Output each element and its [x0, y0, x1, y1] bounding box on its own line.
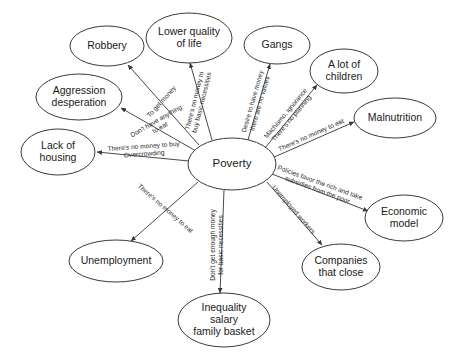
node-label-line: that close — [319, 266, 364, 278]
edge-label-line: Unemployed workers — [270, 184, 317, 237]
node-label-line: Poverty — [213, 157, 252, 169]
node-poverty[interactable]: Poverty — [188, 138, 276, 190]
edge-label-line: for basic necessities — [217, 215, 224, 275]
node-label-line: salary — [210, 313, 239, 325]
node-companies-that-close[interactable]: Companiesthat close — [302, 244, 380, 290]
node-label: Robbery — [87, 39, 127, 51]
node-lack-of-housing[interactable]: Lack ofhousing — [21, 129, 95, 175]
edge-label-line: Machismo, ignorance — [263, 87, 310, 140]
node-label-line: Lower quality — [158, 25, 221, 37]
concept-map-canvas: To get moneyThere's no money tobuy basic… — [0, 0, 458, 358]
node-label-line: housing — [40, 151, 77, 163]
node-label-line: Economic — [381, 205, 427, 217]
node-label-line: Robbery — [87, 39, 127, 51]
node-label-line: Malnutrition — [368, 111, 422, 123]
nodes-layer: RobberyLower qualityof lifeGangsA lot of… — [21, 13, 443, 347]
edge-label-line: There's no money to eat — [136, 182, 195, 235]
node-a-lot-of-children[interactable]: A lot ofchildren — [310, 49, 378, 93]
edge-label: Unemployed workers — [270, 184, 317, 237]
node-label: Companiesthat close — [314, 254, 367, 278]
node-label-line: model — [390, 217, 419, 229]
node-label: Poverty — [213, 157, 252, 169]
node-label-line: Lack of — [41, 139, 75, 151]
node-label: Gangs — [262, 38, 293, 50]
node-label: Aggressiondesperation — [52, 84, 107, 108]
node-label-line: children — [326, 70, 363, 82]
edge-poverty-to-inequality-salary-family-basket: Don't get enough moneyfor basic necessit… — [209, 190, 224, 293]
node-label: Unemployment — [81, 254, 152, 266]
node-unemployment[interactable]: Unemployment — [69, 240, 163, 282]
edge-label: There's no money tobuy basic necessities — [183, 69, 213, 134]
edge-label: There's no money to buyOvercrowding — [107, 140, 181, 161]
node-label-line: Aggression — [53, 84, 106, 96]
node-inequality-salary-family-basket[interactable]: Inequalitysalaryfamily basket — [178, 293, 270, 347]
edge-label: Desire to have moneythere are no values — [240, 69, 272, 135]
node-label-line: family basket — [193, 325, 254, 337]
node-label-line: A lot of — [328, 58, 360, 70]
edge-poverty-to-unemployment: There's no money to eat — [131, 182, 198, 241]
node-label: A lot ofchildren — [326, 58, 363, 82]
node-label-line: Inequality — [202, 300, 248, 312]
concept-map-diagram: To get moneyThere's no money tobuy basic… — [0, 0, 458, 358]
edge-poverty-to-lower-quality-of-life: There's no money tobuy basic necessities — [183, 63, 213, 140]
edge-label: There's no money to eat — [136, 182, 195, 235]
node-label-line: Gangs — [262, 38, 293, 50]
edge-label: Don't get enough moneyfor basic necessit… — [209, 208, 224, 280]
node-gangs[interactable]: Gangs — [244, 26, 310, 64]
node-label-line: of life — [176, 37, 201, 49]
node-label-line: Companies — [314, 254, 367, 266]
node-label-line: desperation — [52, 96, 107, 108]
node-label: Malnutrition — [368, 111, 422, 123]
node-label-line: Unemployment — [81, 254, 152, 266]
node-label: Lack ofhousing — [40, 139, 77, 163]
node-economic-model[interactable]: Economicmodel — [365, 195, 443, 241]
node-aggression-desperation[interactable]: Aggressiondesperation — [36, 74, 122, 120]
node-lower-quality-of-life[interactable]: Lower qualityof life — [146, 13, 232, 63]
edge-poverty-to-lack-of-housing: There's no money to buyOvercrowding — [97, 140, 189, 161]
node-robbery[interactable]: Robbery — [70, 26, 144, 66]
node-malnutrition[interactable]: Malnutrition — [354, 98, 436, 138]
